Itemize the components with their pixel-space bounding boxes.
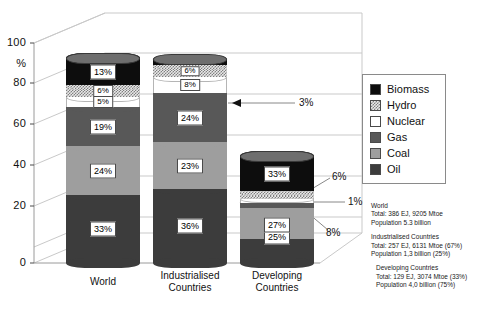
segment-value-label: 6% xyxy=(181,66,200,76)
note-developing: Developing Countries Total: 129 EJ, 3074… xyxy=(371,264,485,289)
bar-industrialised-segment-coal[interactable]: 23% xyxy=(153,142,227,189)
bar-industrialised-segment-nuclear[interactable]: 8% xyxy=(153,77,227,93)
legend-item-gas[interactable]: Gas xyxy=(370,130,437,145)
note-title: Industrialised Countries xyxy=(371,233,485,241)
note-population: Population 1,3 billion (25%) xyxy=(371,250,485,258)
legend-label: Biomass xyxy=(387,84,429,95)
bar-world-segment-gas[interactable]: 19% xyxy=(66,107,140,146)
segment-value-label: 36% xyxy=(177,219,203,234)
bar-world-segment-hydro[interactable]: 6% xyxy=(66,85,140,97)
y-tick-20: 20 xyxy=(0,199,26,211)
note-total: Total: 257 EJ, 6131 Mtoe (67%) xyxy=(371,242,485,250)
bar-developing-top-cap xyxy=(240,151,314,162)
bar-industrialised-segment-gas[interactable]: 24% xyxy=(153,93,227,142)
category-label-line1: Developing xyxy=(252,270,302,281)
y-tick-80: 80 xyxy=(0,76,26,88)
note-population: Population 5.3 billion xyxy=(371,219,485,227)
legend-item-oil[interactable]: Oil xyxy=(370,162,437,177)
segment-value-label: 5% xyxy=(93,96,113,108)
note-title: Developing Countries xyxy=(376,264,485,272)
legend-label: Gas xyxy=(387,132,407,143)
y-tick-60: 60 xyxy=(0,117,26,129)
segment-value-label: 33% xyxy=(264,166,290,181)
segment-value-label: 8% xyxy=(180,79,200,91)
note-total: Total: 129 EJ, 3074 Mtoe (33%) xyxy=(376,273,485,281)
segment-value-label: 24% xyxy=(90,163,116,178)
callout-developing-hydro: 6% xyxy=(332,171,346,182)
bar-industrialised-segment-oil[interactable]: 36% xyxy=(153,189,227,263)
legend-item-biomass[interactable]: Biomass xyxy=(370,82,437,97)
biomass-swatch-icon xyxy=(370,84,381,95)
bar-world-bottom-cap xyxy=(66,258,140,268)
category-label-line1: World xyxy=(90,276,116,287)
legend-item-hydro[interactable]: Hydro xyxy=(370,98,437,113)
segment-value-label: 24% xyxy=(177,110,203,125)
segment-value-label: 6% xyxy=(93,85,113,97)
legend-label: Hydro xyxy=(387,100,416,111)
segment-value-label: 33% xyxy=(90,222,116,237)
bar-industrialised-segment-hydro[interactable]: 6% xyxy=(153,65,227,77)
note-total: Total: 386 EJ, 9205 Mtoe xyxy=(371,210,485,218)
bar-industrialised-top-cap xyxy=(153,54,227,65)
oil-swatch-icon xyxy=(370,164,381,175)
bar-industrialised[interactable]: 36% 23% 24% 8% 6% xyxy=(153,30,227,270)
category-label-developing: Developing Countries xyxy=(217,270,337,294)
legend: Biomass Hydro Nuclear Gas Coal Oil xyxy=(362,74,446,184)
segment-value-label: 19% xyxy=(90,119,116,134)
bar-world-segment-oil[interactable]: 33% xyxy=(66,195,140,263)
hydro-swatch-icon xyxy=(370,100,381,111)
legend-label: Coal xyxy=(387,148,410,159)
legend-item-nuclear[interactable]: Nuclear xyxy=(370,114,437,129)
y-tick-100: 100 xyxy=(0,36,26,48)
bar-world[interactable]: 33% 24% 19% 5% 6% 13% xyxy=(66,30,140,270)
note-population: Population 4,0 billion (75%) xyxy=(376,281,485,289)
segment-value-label: 27% xyxy=(264,217,290,232)
category-label-line2: Countries xyxy=(256,282,299,293)
callout-developing-gas: 8% xyxy=(326,227,340,238)
bar-developing[interactable]: 25% 27% 33% xyxy=(240,30,314,270)
gas-swatch-icon xyxy=(370,132,381,143)
note-world: World Total: 386 EJ, 9205 Mtoe Populatio… xyxy=(371,202,485,227)
legend-label: Nuclear xyxy=(387,116,425,127)
bar-industrialised-bottom-cap xyxy=(153,258,227,268)
legend-label: Oil xyxy=(387,164,400,175)
y-axis-unit: % xyxy=(0,57,26,69)
callout-industrialised-biomass: 3% xyxy=(299,97,313,108)
bar-world-top-cap xyxy=(66,53,140,64)
bar-world-segment-nuclear[interactable]: 5% xyxy=(66,97,140,107)
note-industrialised: Industrialised Countries Total: 257 EJ, … xyxy=(371,233,485,258)
y-tick-0: 0 xyxy=(0,256,26,268)
notes-panel: World Total: 386 EJ, 9205 Mtoe Populatio… xyxy=(371,202,485,296)
callout-developing-nuclear: 1% xyxy=(348,196,362,207)
category-label-line2: Countries xyxy=(169,282,212,293)
segment-value-label: 13% xyxy=(90,64,116,79)
bar-developing-segment-hydro[interactable] xyxy=(240,191,314,199)
category-label-line1: Industrialised xyxy=(161,270,220,281)
coal-swatch-icon xyxy=(370,148,381,159)
bar-world-segment-coal[interactable]: 24% xyxy=(66,146,140,195)
legend-item-coal[interactable]: Coal xyxy=(370,146,437,161)
bar-developing-bottom-cap xyxy=(240,258,314,268)
segment-value-label: 23% xyxy=(177,158,203,173)
nuclear-swatch-icon xyxy=(370,116,381,127)
note-title: World xyxy=(371,202,485,210)
y-tick-40: 40 xyxy=(0,158,26,170)
chart-root: 100 % 80 60 40 20 0 33% 24% 19% 5% xyxy=(0,0,485,310)
